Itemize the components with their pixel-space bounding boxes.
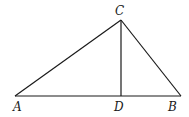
label-a: A <box>12 100 22 114</box>
label-b: B <box>167 100 177 114</box>
label-c: C <box>115 4 124 18</box>
triangle-diagram: C A D B <box>0 0 189 117</box>
segment-cb <box>121 20 181 96</box>
segment-ac <box>15 20 121 96</box>
label-d: D <box>113 100 124 114</box>
